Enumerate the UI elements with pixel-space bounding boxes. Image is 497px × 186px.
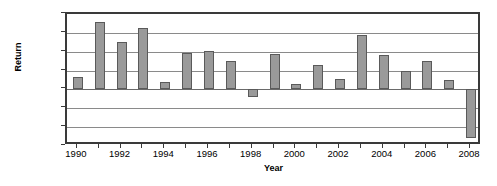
plot-area (65, 12, 480, 144)
bar-series (67, 14, 478, 142)
bar (466, 89, 476, 138)
return-by-year-bar-chart: Return 40%30%20%10%0%–10%–20%–30% 199019… (0, 0, 497, 186)
bar (291, 84, 301, 90)
bar (444, 80, 454, 89)
x-tick-label: 1994 (143, 148, 183, 159)
x-tick-mark (447, 144, 448, 148)
y-tick-mark (61, 144, 65, 145)
y-tick-mark (61, 50, 65, 51)
x-tick-label: 2000 (274, 148, 314, 159)
y-axis-title: Return (13, 17, 23, 97)
bar (357, 35, 367, 90)
y-tick-mark (61, 12, 65, 13)
x-tick-label: 1992 (100, 148, 140, 159)
bar (270, 54, 280, 90)
bar (95, 22, 105, 90)
x-tick-label: 2006 (405, 148, 445, 159)
x-tick-label: 1996 (187, 148, 227, 159)
bar (422, 61, 432, 89)
x-tick-label: 1998 (231, 148, 271, 159)
bar (182, 53, 192, 90)
y-tick-mark (61, 125, 65, 126)
bar (248, 89, 258, 97)
bar (379, 55, 389, 90)
bar (204, 51, 214, 90)
x-tick-label: 2008 (449, 148, 489, 159)
x-axis-title: Year (0, 163, 497, 173)
x-tick-mark (98, 144, 99, 148)
x-tick-mark (141, 144, 142, 148)
bar (73, 77, 83, 89)
bar (335, 79, 345, 89)
bar (226, 61, 236, 89)
x-tick-mark (360, 144, 361, 148)
bar (117, 42, 127, 89)
bar (160, 82, 170, 90)
y-tick-mark (61, 106, 65, 107)
bar (138, 28, 148, 89)
x-tick-label: 2004 (362, 148, 402, 159)
x-tick-mark (316, 144, 317, 148)
bar (401, 71, 411, 90)
x-tick-label: 2002 (318, 148, 358, 159)
y-tick-mark (61, 31, 65, 32)
bar (313, 65, 323, 90)
x-tick-mark (404, 144, 405, 148)
x-tick-mark (185, 144, 186, 148)
x-tick-label: 1990 (56, 148, 96, 159)
x-tick-mark (229, 144, 230, 148)
y-tick-mark (61, 87, 65, 88)
y-tick-mark (61, 69, 65, 70)
